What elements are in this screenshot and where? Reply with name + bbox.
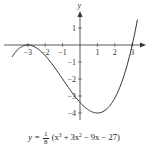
- y-tick-label: −4: [67, 109, 76, 118]
- fraction-denominator: 8: [43, 139, 49, 146]
- x-tick-label: −3: [24, 48, 33, 57]
- caption-fraction: 18: [43, 131, 49, 146]
- x-tick-label: −1: [58, 48, 67, 57]
- x-axis-arrow-icon: [140, 43, 146, 48]
- y-tick-label: −2: [67, 75, 76, 84]
- caption-lhs: y =: [28, 132, 42, 142]
- y-axis-label: y: [77, 1, 82, 10]
- function-equation-caption: y = 18 (x3 + 3x2 − 9x − 27): [0, 131, 148, 146]
- x-tick-label: 1: [95, 48, 99, 57]
- y-axis-arrow-icon: [78, 11, 83, 17]
- caption-part: (x: [50, 132, 59, 142]
- y-tick-label: −1: [67, 58, 76, 67]
- y-tick-label: 1: [72, 24, 76, 33]
- function-graph: −3−2−1123 y 1−1−2−3−4: [0, 0, 148, 130]
- x-tick-label: 2: [113, 48, 117, 57]
- caption-part: − 9x − 27): [82, 132, 120, 142]
- x-axis: −3−2−1123: [4, 43, 146, 58]
- caption-part: + 3x: [62, 132, 80, 142]
